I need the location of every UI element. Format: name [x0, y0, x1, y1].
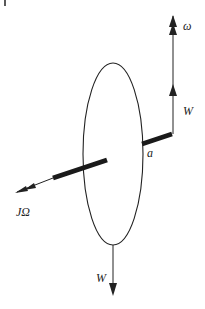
- weight-top-label: W: [183, 104, 194, 118]
- gyroscope-diagram: ω W a JΩ W: [0, 0, 205, 309]
- angular-momentum-label: JΩ: [16, 205, 30, 219]
- weight-arrow: [109, 245, 117, 296]
- disc-ellipse: [83, 63, 143, 245]
- arrowhead-icon: [169, 84, 177, 96]
- axle-left: [53, 160, 107, 178]
- omega-label: ω: [183, 19, 191, 33]
- angular-momentum-arrow: [15, 178, 53, 193]
- axle-right: [142, 134, 172, 144]
- weight-bottom-label: W: [96, 271, 107, 285]
- distance-label: a: [147, 146, 153, 160]
- omega-arrow: [169, 15, 177, 134]
- arrowhead-icon: [109, 283, 117, 296]
